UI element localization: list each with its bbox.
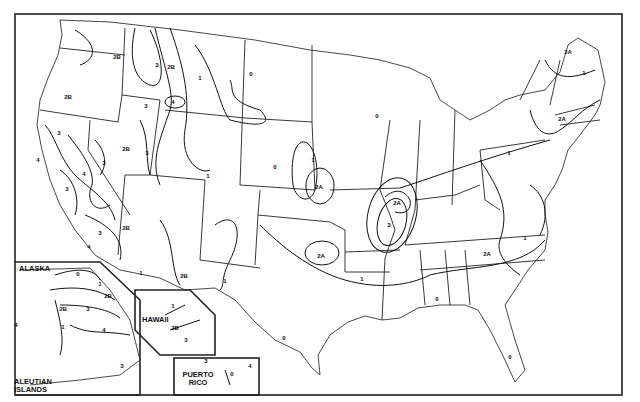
zone-label-fl-0: 0 [508, 354, 511, 360]
zone-label-nv-3: 3 [102, 160, 105, 166]
zone-label-me-2a: 2A [564, 49, 572, 55]
zone-label-id-3a: 3 [155, 62, 158, 68]
us-outline [37, 20, 605, 382]
zone-label-ak-3: 3 [86, 306, 89, 312]
zone-label-ne-0: 0 [273, 164, 276, 170]
zone-label-ak-2b: 2B [104, 293, 112, 299]
aleutian-title: ALEUTIAN ISLANDS [14, 378, 59, 394]
zone-label-wa-2b: 2B [113, 54, 121, 60]
zone-label-me-1: 1 [582, 70, 585, 76]
zone-label-ak-1a: 1 [98, 281, 101, 287]
zone-label-ak-2b2: 2B [59, 306, 67, 312]
zone-label-tx-0: 0 [282, 335, 285, 341]
zone-label-hi-1: 1 [171, 303, 174, 309]
zone-label-gulf-0: 0 [435, 296, 438, 302]
zone-label-pr-3: 3 [204, 358, 207, 364]
zone-label-mt-1: 1 [198, 75, 201, 81]
zone-label-sc-2a: 2A [483, 251, 491, 257]
zone-label-wy-0: 0 [249, 71, 252, 77]
zone-label-pa-1: 1 [507, 150, 510, 156]
zone-label-id-3b: 3 [144, 103, 147, 109]
zone-label-mo-3: 3 [387, 222, 390, 228]
alaska-title: ALASKA [19, 265, 50, 273]
zone-label-ia-1: 1 [311, 157, 314, 163]
zone-label-ca-4b: 4 [87, 244, 90, 250]
zone-label-mt-4: 4 [171, 99, 174, 105]
zone-contours [45, 28, 600, 290]
state-boundaries [40, 28, 600, 320]
zone-label-pr-4: 4 [248, 363, 251, 369]
puerto-rico-title: PUERTO RICO [180, 371, 216, 387]
zone-label-ok-2a: 2A [317, 253, 325, 259]
zone-label-az-1: 1 [139, 270, 142, 276]
zone-label-nm-1: 1 [223, 278, 226, 284]
zone-label-az-2b: 2B [122, 225, 130, 231]
zone-label-nm-2b: 2B [180, 273, 188, 279]
zone-label-nc-1: 1 [523, 235, 526, 241]
zone-label-ca-3a: 3 [57, 130, 60, 136]
zone-label-hi-3: 3 [184, 337, 187, 343]
zone-label-id-2b: 2B [167, 64, 175, 70]
zone-label-hi-2b: 2B [171, 325, 179, 331]
zone-label-ak-4: 4 [102, 327, 105, 333]
zone-label-ca-3b: 3 [65, 186, 68, 192]
zone-label-co-1: 1 [206, 173, 209, 179]
map-frame [15, 14, 622, 395]
zone-label-nv-4: 4 [82, 171, 85, 177]
zone-label-ne-2a: 2A [558, 116, 566, 122]
zone-label-ar-1: 1 [360, 276, 363, 282]
alaska-inset [15, 262, 140, 395]
zone-label-or-2b: 2B [64, 94, 72, 100]
zone-label-ak-1b: 1 [61, 324, 64, 330]
zone-label-mn-0: 0 [375, 113, 378, 119]
zone-label-ks-2a: 2A [315, 184, 323, 190]
zone-label-pr-0: 0 [230, 371, 233, 377]
zone-label-ca-4a: 4 [36, 157, 39, 163]
zone-label-aleut-3: 3 [120, 363, 123, 369]
zone-label-ca-3c: 3 [98, 230, 101, 236]
zone-label-ak-4b: 4 [14, 322, 17, 328]
zone-label-ut-3: 3 [145, 150, 148, 156]
zone-label-ak-0: 0 [76, 271, 79, 277]
zone-label-nv-2b: 2B [122, 146, 130, 152]
zone-label-il-2a: 2A [393, 200, 401, 206]
seismic-zone-map [0, 0, 640, 402]
hawaii-title: HAWAII [142, 316, 169, 324]
